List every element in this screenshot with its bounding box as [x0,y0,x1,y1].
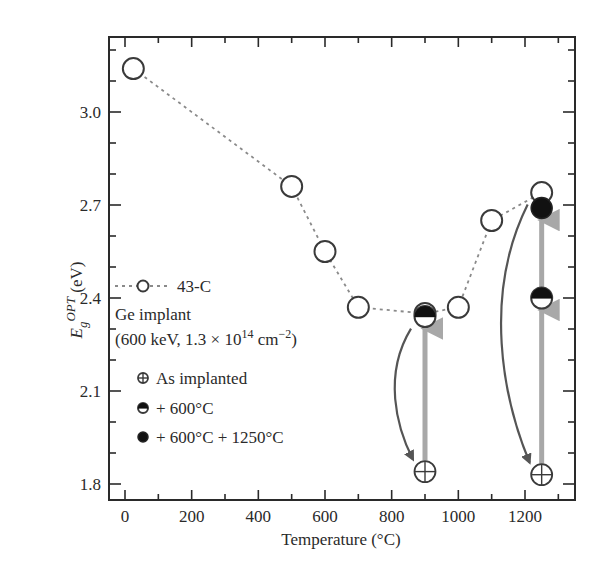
open-circle-icon [123,58,144,79]
open-circle-marker [481,210,502,231]
circle-plus-marker [138,373,148,383]
half-filled-circle-marker [531,288,552,309]
legend-subtitle: (600 keV, 1.3 × 1014 cm−2) [115,327,297,349]
open-circle-icon [448,297,469,318]
half-filled-circle-marker [415,306,436,327]
legend-series-label: 43-C [177,277,211,296]
legend-item-label: + 600°C + 1250°C [156,428,284,447]
curved-arrow [501,205,530,463]
filled-circle-icon [531,198,552,219]
curved-arrow [395,329,413,460]
y-axis: 1.82.12.42.73.0 [80,50,575,494]
chart: 020040060080010001200 1.82.12.42.73.0 43… [0,0,608,583]
x-tick-label: 800 [379,507,405,526]
circle-plus-marker [415,461,436,482]
x-axis-label: Temperature (°C) [281,530,400,549]
annotation-arrows [395,205,542,464]
half-fill [531,288,552,299]
y-tick-label: 3.0 [80,103,101,122]
x-tick-label: 1000 [441,507,475,526]
circle-plus-marker [531,464,552,485]
open-circle-marker [123,58,144,79]
open-circle-marker [348,297,369,318]
x-tick-label: 400 [246,507,272,526]
filled-circle-marker [531,198,552,219]
y-tick-label: 2.1 [80,382,101,401]
filled-circle-marker [138,432,148,442]
legend: 43-CGe implant(600 keV, 1.3 × 1014 cm−2)… [115,277,297,447]
filled-circle-icon [138,432,148,442]
x-tick-label: 200 [179,507,205,526]
open-circle-marker [281,176,302,197]
open-circle-icon [315,241,336,262]
open-circle-icon [281,176,302,197]
legend-item-label: As implanted [156,369,248,388]
legend-item-label: + 600°C [156,399,213,418]
open-circle-icon [481,210,502,231]
y-tick-label: 1.8 [80,475,101,494]
legend-title: Ge implant [115,305,191,324]
x-tick-label: 0 [121,507,130,526]
x-tick-label: 1200 [508,507,542,526]
open-circle-marker [448,297,469,318]
open-circle-marker [138,281,149,292]
data-series [123,58,552,485]
y-tick-label: 2.7 [80,196,102,215]
open-circle-icon [348,297,369,318]
open-circle-marker [315,241,336,262]
half-filled-circle-marker [138,403,148,413]
open-circle-icon [138,281,149,292]
x-tick-label: 600 [312,507,338,526]
